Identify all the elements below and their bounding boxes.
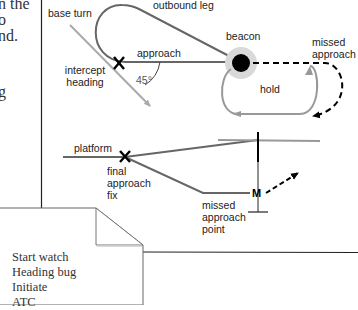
- label-map-line1: missed: [202, 199, 246, 211]
- note-item: ATC: [12, 295, 76, 310]
- map-missed-arrow: [266, 173, 298, 193]
- label-approach: approach: [137, 47, 181, 59]
- label-map-line3: point: [202, 223, 246, 235]
- label-hold: hold: [260, 83, 280, 95]
- label-final-approach-fix: final approach fix: [107, 165, 151, 201]
- note-checklist: Start watch Heading bug Initiate ATC: [12, 250, 76, 310]
- label-faf-line2: approach: [107, 177, 151, 189]
- label-base-turn: base turn: [48, 7, 92, 19]
- label-map-line2: approach: [202, 211, 246, 223]
- frame-bottom-border: [143, 252, 358, 253]
- beacon-icon: [232, 54, 250, 72]
- label-platform: platform: [74, 142, 112, 154]
- label-missed-approach: missed approach: [312, 36, 356, 60]
- page-curl-icon: [96, 208, 143, 245]
- label-angle: 45°: [136, 74, 152, 86]
- glide-path-upper: [125, 140, 258, 157]
- label-faf-line3: fix: [107, 189, 151, 201]
- fix-marker-icon: [114, 57, 124, 69]
- label-intercept-line2: heading: [62, 76, 108, 88]
- label-intercept-heading: intercept heading: [62, 64, 108, 88]
- map-marker-icon: M: [252, 187, 261, 199]
- label-beacon: beacon: [226, 30, 260, 42]
- label-intercept-line1: intercept: [62, 64, 108, 76]
- label-outbound-leg: outbound leg: [153, 0, 214, 11]
- note-item: Start watch: [12, 250, 76, 265]
- label-missed-approach-point: missed approach point: [202, 199, 246, 235]
- horizon-line: [218, 140, 320, 141]
- note-item: Initiate: [12, 280, 76, 295]
- label-missed-line1: missed: [312, 36, 356, 48]
- note-item: Heading bug: [12, 265, 76, 280]
- label-faf-line1: final: [107, 165, 151, 177]
- label-missed-line2: approach: [312, 48, 356, 60]
